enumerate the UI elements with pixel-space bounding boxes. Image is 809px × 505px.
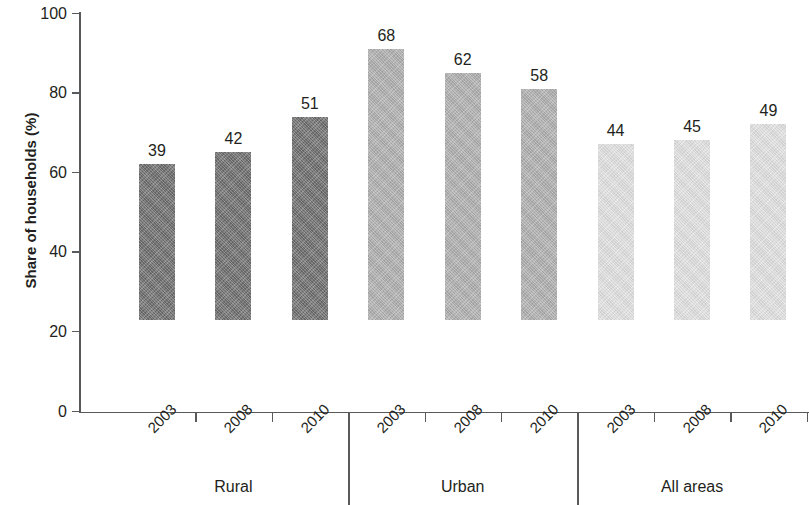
y-axis-tick-label: 40	[49, 243, 67, 261]
bar-value-label: 68	[377, 27, 395, 45]
bar-value-label: 42	[225, 130, 243, 148]
y-axis-tick-mark	[72, 331, 79, 333]
bar-chart: Share of households (%) 020406080100 394…	[0, 0, 809, 505]
y-axis-tick-label: 100	[40, 5, 67, 23]
x-axis-tick-mark	[272, 413, 274, 422]
y-axis-tick-label: 20	[49, 323, 67, 341]
bar[interactable]: 44	[598, 144, 634, 319]
bar-rect	[368, 49, 404, 320]
x-axis-tick-mark	[807, 413, 809, 422]
bar-value-label: 51	[301, 95, 319, 113]
y-axis-tick-mark	[72, 251, 79, 253]
x-axis-group-label: Urban	[441, 478, 485, 496]
bar-rect	[215, 152, 251, 319]
bar-rect	[139, 164, 175, 319]
bar-value-label: 39	[148, 142, 166, 160]
group-separator	[348, 413, 350, 505]
y-axis-tick-label: 60	[49, 164, 67, 182]
group-separator	[577, 413, 579, 505]
bar-value-label: 45	[683, 118, 701, 136]
bar-rect	[292, 117, 328, 320]
bar[interactable]: 39	[139, 164, 175, 319]
bar-rect	[598, 144, 634, 319]
y-axis-line	[79, 12, 81, 413]
bar[interactable]: 45	[674, 140, 710, 319]
bar-value-label: 44	[607, 122, 625, 140]
bar[interactable]: 51	[292, 117, 328, 320]
bar-value-label: 58	[530, 67, 548, 85]
bar-value-label: 49	[760, 102, 778, 120]
bar[interactable]: 49	[750, 124, 786, 319]
y-axis-tick-mark	[72, 92, 79, 94]
x-axis-tick-mark	[654, 413, 656, 422]
bar-value-label: 62	[454, 51, 472, 69]
x-axis-tick-mark	[425, 413, 427, 422]
y-axis-tick-label: 0	[58, 403, 67, 421]
x-axis-group-label: All areas	[661, 478, 723, 496]
y-axis-tick-mark	[72, 13, 79, 15]
bar-rect	[521, 89, 557, 320]
bar-rect	[750, 124, 786, 319]
x-axis-group-label: Rural	[214, 478, 252, 496]
bar[interactable]: 68	[368, 49, 404, 320]
x-axis-tick-mark	[730, 413, 732, 422]
y-axis-tick-mark	[72, 411, 79, 413]
y-axis-tick-label: 80	[49, 84, 67, 102]
y-axis-tick-mark	[72, 172, 79, 174]
bar[interactable]: 62	[445, 73, 481, 320]
bar[interactable]: 42	[215, 152, 251, 319]
x-axis-tick-mark	[501, 413, 503, 422]
bar-rect	[674, 140, 710, 319]
x-axis-tick-mark	[195, 413, 197, 422]
bar[interactable]: 58	[521, 89, 557, 320]
y-axis: 020406080100	[0, 0, 79, 505]
bar-rect	[445, 73, 481, 320]
plot-area: 394251686258444549	[79, 0, 809, 413]
